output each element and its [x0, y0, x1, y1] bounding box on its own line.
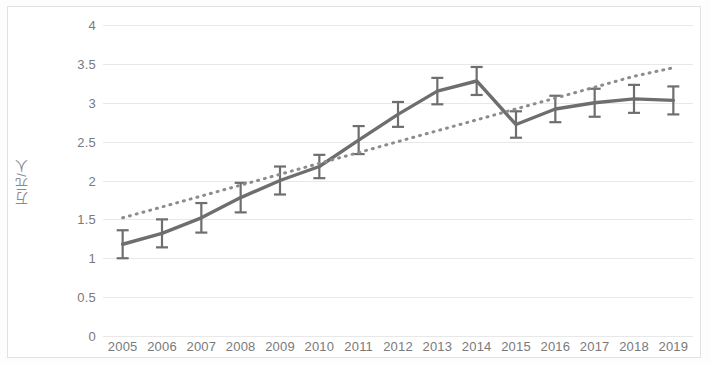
x-tick-label: 2019 [658, 339, 688, 354]
gridline [103, 336, 693, 337]
x-axis-tick-labels: 2005200620072008200920102011201220132014… [103, 339, 693, 359]
y-axis-title: 万元/人 [12, 158, 31, 205]
x-tick-label: 2016 [540, 339, 570, 354]
x-tick-label: 2011 [344, 339, 373, 354]
y-tick-label: 0.5 [77, 290, 96, 305]
y-tick-label: 2.5 [77, 134, 96, 149]
chart-container: 万元/人 00.511.522.533.54 20052006200720082… [0, 0, 711, 365]
x-tick-label: 2017 [580, 339, 610, 354]
y-tick-label: 4 [89, 18, 96, 33]
x-tick-label: 2009 [265, 339, 295, 354]
y-tick-label: 2 [89, 173, 96, 188]
error-bars-group [117, 67, 680, 258]
x-tick-label: 2006 [147, 339, 177, 354]
y-axis-tick-labels: 00.511.522.533.54 [38, 25, 96, 336]
x-tick-label: 2018 [619, 339, 649, 354]
x-tick-label: 2015 [501, 339, 531, 354]
x-tick-label: 2007 [186, 339, 216, 354]
y-tick-label: 3.5 [77, 56, 96, 71]
y-tick-label: 3 [89, 95, 96, 110]
x-tick-label: 2013 [422, 339, 452, 354]
trendline-series [123, 68, 674, 218]
x-tick-label: 2008 [226, 339, 256, 354]
x-tick-label: 2005 [108, 339, 138, 354]
y-tick-label: 1.5 [77, 212, 96, 227]
chart-series-svg [103, 25, 693, 336]
plot-area [103, 25, 693, 336]
y-tick-label: 1 [89, 251, 96, 266]
x-tick-label: 2010 [304, 339, 334, 354]
x-tick-label: 2012 [383, 339, 413, 354]
y-tick-label: 0 [89, 329, 96, 344]
x-tick-label: 2014 [462, 339, 492, 354]
